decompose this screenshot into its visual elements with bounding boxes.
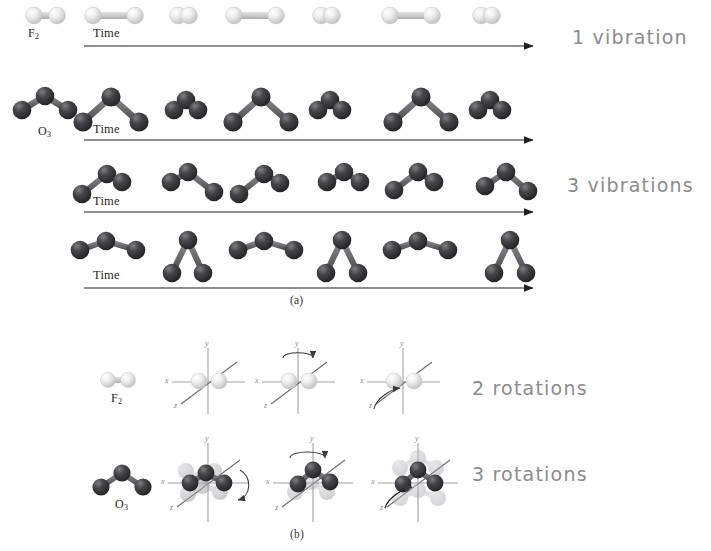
- axis-label-z-f2-2: z: [264, 401, 267, 410]
- time-label-row4: Time: [93, 268, 120, 283]
- molecule-o3-reference: [13, 87, 78, 120]
- axis-label-x-o3-3: x: [371, 477, 375, 486]
- axis-label-x-f2-3: x: [360, 376, 364, 385]
- axis-set-f2-1: [172, 348, 245, 414]
- time-label-row1: Time: [93, 26, 120, 41]
- axis-label-y-f2-3: y: [400, 339, 404, 348]
- frame-o3a-3: [230, 165, 290, 204]
- molecule-o3-rot-reference: [92, 464, 151, 495]
- axis-set-f2-3: [367, 348, 440, 414]
- axis-label-z-f2-1: z: [174, 401, 177, 410]
- axis-label-z-o3-1: z: [170, 503, 173, 512]
- frame-f2-3: [226, 7, 285, 24]
- axis-label-x-o3-2: x: [266, 477, 270, 486]
- molecule-label-f2-rotation: F2: [111, 391, 122, 406]
- frame-f2-5: [382, 7, 441, 24]
- axis-label-z-o3-2: z: [275, 503, 278, 512]
- frame-o3b-1: [71, 232, 146, 260]
- axis-label-y-o3-3: y: [415, 434, 419, 443]
- frame-f2-2: [170, 7, 198, 24]
- row-o3-asymmetric-stretch: [73, 163, 538, 212]
- frame-o3b-4: [317, 231, 368, 283]
- annotation-rotation-count-o3: 3 rotations: [472, 463, 588, 485]
- frame-f2-1: [85, 7, 144, 24]
- molecule-f2-reference: [26, 7, 66, 24]
- frame-o3s-4: [309, 91, 352, 120]
- axis-label-y-f2-2: y: [295, 339, 299, 348]
- frame-o3b-5: [383, 232, 458, 260]
- frame-o3a-5: [385, 163, 444, 200]
- axis-label-x-o3-1: x: [161, 477, 165, 486]
- axis-set-f2-2: [262, 348, 335, 414]
- frame-o3b-2: [163, 231, 213, 283]
- axis-label-y-o3-1: y: [205, 434, 209, 443]
- molecule-label-o3-rotation: O3: [115, 497, 128, 512]
- axis-label-x-f2-1: x: [165, 376, 169, 385]
- time-label-row3: Time: [93, 194, 120, 209]
- frame-f2-6: [473, 7, 501, 24]
- panel-caption-b: (b): [290, 528, 304, 540]
- axis-label-y-o3-2: y: [310, 434, 314, 443]
- axis-set-o3-2: [273, 443, 353, 522]
- axis-label-x-f2-2: x: [255, 376, 259, 385]
- axis-set-o3-1: [168, 443, 249, 522]
- rotation-arrow-x-o3: [238, 470, 249, 500]
- axis-label-y-f2-1: y: [205, 339, 209, 348]
- rotation-arrow-z-f2: [374, 388, 400, 409]
- figure-canvas: F2 Time O3 Time Time Time (a) (b) F2 O3 …: [0, 0, 711, 551]
- rotation-arrow-y-o3: [290, 452, 325, 458]
- frame-o3b-3: [229, 232, 304, 260]
- row-o3-bend: [71, 231, 536, 288]
- annotation-vibration-count-f2: 1 vibration: [572, 26, 688, 48]
- frame-o3s-5: [383, 87, 458, 131]
- axis-label-z-f2-3: z: [369, 401, 372, 410]
- frame-o3a-6: [476, 163, 538, 201]
- molecule-label-o3-vibration: O3: [38, 124, 51, 139]
- frame-o3s-2: [165, 91, 208, 120]
- frame-o3a-4: [318, 163, 370, 192]
- axis-label-z-o3-3: z: [380, 503, 383, 512]
- molecule-f2-rot-reference: [100, 372, 135, 387]
- row-f2-rotation: [100, 348, 440, 414]
- frame-o3s-6: [469, 91, 512, 120]
- molecule-label-f2-vibration: F2: [28, 26, 39, 41]
- panel-caption-a: (a): [290, 294, 303, 306]
- frame-o3b-6: [485, 231, 536, 283]
- annotation-rotation-count-f2: 2 rotations: [472, 377, 588, 399]
- axis-set-o3-3: [378, 443, 458, 522]
- annotation-vibration-count-o3: 3 vibrations: [567, 174, 694, 196]
- time-label-row2: Time: [93, 122, 120, 137]
- frame-f2-4: [313, 7, 341, 24]
- row-o3-symmetric-stretch: [13, 87, 533, 140]
- frame-o3a-2: [162, 163, 224, 202]
- frame-o3s-3: [223, 87, 298, 131]
